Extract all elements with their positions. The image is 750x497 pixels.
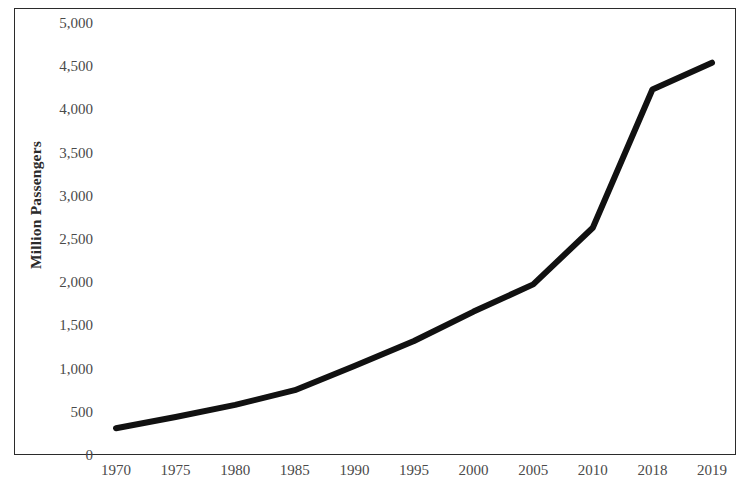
x-axis-tick-label: 1985 [265, 462, 325, 479]
x-axis-tick-label: 2018 [622, 462, 682, 479]
y-axis-tick-label: 2,500 [29, 231, 93, 248]
y-axis-tick-label: 4,000 [29, 101, 93, 118]
y-axis-tick-label: 0 [29, 447, 93, 464]
x-axis-tick-label: 2010 [563, 462, 623, 479]
x-axis-tick-label: 2019 [682, 462, 742, 479]
y-axis-tick-label: 3,500 [29, 144, 93, 161]
y-axis-tick-labels: 5,0004,5004,0003,5003,0002,5002,0001,500… [29, 0, 93, 497]
y-axis-tick-label: 1,000 [29, 360, 93, 377]
x-axis-tick-label: 1995 [384, 462, 444, 479]
y-axis-tick-label: 500 [29, 403, 93, 420]
x-axis-tick-label: 2005 [503, 462, 563, 479]
x-axis-tick-label: 1980 [205, 462, 265, 479]
x-axis-tick-label: 1975 [146, 462, 206, 479]
y-axis-tick-label: 3,000 [29, 187, 93, 204]
x-axis-tick-label: 2000 [444, 462, 504, 479]
x-axis-tick-labels: 1970197519801985199019952000200520102018… [0, 462, 750, 492]
y-axis-tick-label: 4,500 [29, 58, 93, 75]
chart-figure: Million Passengers 5,0004,5004,0003,5003… [0, 0, 750, 497]
y-axis-tick-label: 1,500 [29, 317, 93, 334]
plot-frame [14, 8, 736, 455]
y-axis-tick-label: 5,000 [29, 15, 93, 32]
x-axis-tick-label: 1970 [86, 462, 146, 479]
x-axis-tick-label: 1990 [324, 462, 384, 479]
y-axis-tick-label: 2,000 [29, 274, 93, 291]
